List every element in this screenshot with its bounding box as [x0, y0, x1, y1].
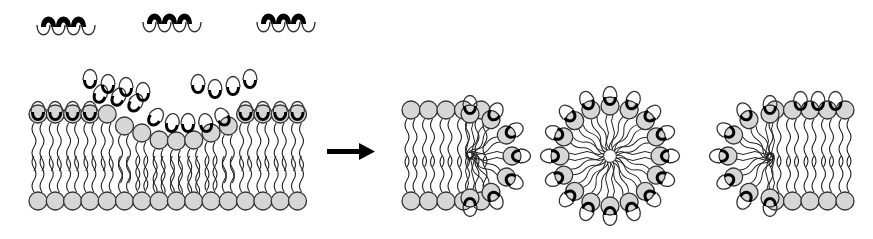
free-peptide [143, 14, 201, 32]
membrane-disruption-diagram [0, 0, 873, 239]
right-capped-bilayer-edge [710, 92, 855, 217]
bottom-leaflet-lipid [784, 156, 802, 210]
bottom-leaflet-lipid [219, 156, 237, 210]
lipid-bilayer-with-peptides [29, 70, 307, 211]
top-leaflet-lipid [402, 101, 420, 167]
bottom-leaflet-lipid [819, 156, 837, 210]
hydrophobic-cap [162, 14, 177, 25]
bottom-leaflet-lipid [150, 156, 168, 210]
bottom-leaflet-lipid [116, 156, 134, 210]
top-leaflet-lipid [801, 101, 819, 167]
hydrophobic-cap [56, 17, 71, 28]
inserting-peptide [181, 114, 195, 134]
adsorbed-peptide [119, 78, 133, 98]
adsorbed-peptide [191, 75, 205, 95]
top-leaflet-lipid [202, 124, 220, 190]
free-peptides-group [37, 14, 315, 35]
top-leaflet-lipid [437, 101, 455, 167]
micelle-peptide [541, 149, 561, 163]
free-peptide [257, 14, 315, 32]
hydrophobic-cap [41, 17, 56, 28]
bottom-leaflet-lipid [420, 156, 438, 210]
free-peptide [37, 17, 95, 35]
hydrophobic-cap [276, 14, 291, 25]
process-arrow [327, 143, 375, 160]
left-capped-bilayer-edge [402, 96, 531, 217]
hydrophobic-cap [177, 14, 192, 25]
adsorbed-peptide [243, 70, 257, 90]
arrow-head [359, 143, 375, 160]
hydrophobic-cap [71, 17, 86, 28]
adsorbed-peptide [101, 75, 115, 95]
hydrophobic-cap [261, 14, 276, 25]
bottom-leaflet-lipid [167, 156, 185, 210]
inserting-peptide [164, 112, 181, 134]
top-leaflet-lipid [420, 101, 438, 167]
adsorbed-peptide [136, 83, 150, 103]
bottom-leaflet-lipid [801, 156, 819, 210]
top-leaflet-lipid [784, 101, 802, 167]
bottom-leaflet-lipid [402, 156, 420, 210]
mixed-micelle [541, 87, 680, 226]
micelle-peptide [603, 87, 617, 107]
adsorbed-peptide [226, 77, 240, 97]
micelle-peptide [603, 206, 617, 226]
adsorbed-peptide [208, 80, 222, 100]
bottom-leaflet-lipid [437, 156, 455, 210]
hydrophobic-cap [147, 14, 162, 25]
bottom-leaflet-lipid [836, 156, 854, 210]
adsorbed-peptide [83, 70, 97, 90]
hydrophobic-cap [291, 14, 306, 25]
micelle-peptide [660, 149, 680, 163]
arrow-shaft [327, 149, 361, 154]
top-leaflet-lipid [133, 124, 151, 190]
top-leaflet-lipid [836, 101, 854, 167]
top-leaflet-lipid [819, 101, 837, 167]
bottom-leaflet-lipid [185, 156, 203, 210]
